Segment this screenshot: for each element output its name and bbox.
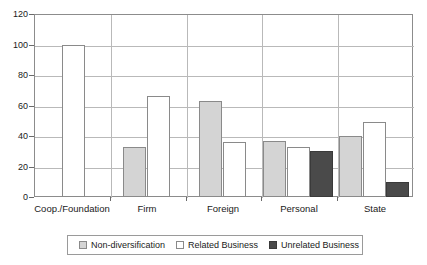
y-tick-label-20: 20 <box>0 163 28 172</box>
bar-personal-related <box>287 147 310 197</box>
x-tick-mark-2 <box>186 197 187 201</box>
y-tick-label-60: 60 <box>0 102 28 111</box>
bar-state-non-diversification <box>339 136 362 197</box>
legend-label-related-business: Related Business <box>188 241 258 250</box>
bars-layer <box>34 14 413 197</box>
chart-legend: Non-diversification Related Business Unr… <box>67 235 363 255</box>
x-tick-mark-4 <box>337 197 338 201</box>
legend-label-non-diversification: Non-diversification <box>91 241 165 250</box>
y-tick-label-80: 80 <box>0 71 28 80</box>
bar-coop-foundation-related <box>62 45 85 198</box>
legend-item-non-diversification: Non-diversification <box>79 241 165 250</box>
x-tick-mark-1 <box>110 197 111 201</box>
legend-item-unrelated-business: Unrelated Business <box>269 241 359 250</box>
y-tick-label-100: 100 <box>0 41 28 50</box>
bar-foreign-non-diversification <box>199 101 222 197</box>
bar-personal-non-diversification <box>263 141 286 197</box>
bar-personal-unrelated <box>310 151 333 197</box>
bar-firm-related <box>147 96 170 197</box>
bar-state-unrelated <box>386 182 409 197</box>
bar-foreign-related <box>223 142 246 197</box>
legend-swatch-icon-related-business <box>176 241 184 249</box>
x-tick-mark-3 <box>261 197 262 201</box>
bar-state-related <box>363 122 386 197</box>
legend-swatch-icon-unrelated-business <box>269 241 277 249</box>
bar-firm-non-diversification <box>123 147 146 197</box>
y-tick-mark-0 <box>29 197 34 198</box>
y-tick-label-40: 40 <box>0 132 28 141</box>
legend-swatch-icon-non-diversification <box>79 241 87 249</box>
y-tick-label-120: 120 <box>0 10 28 19</box>
x-label-state: State <box>325 203 425 214</box>
bar-chart: 120 100 80 60 40 20 0 Coop./Foundation F… <box>0 0 427 265</box>
legend-label-unrelated-business: Unrelated Business <box>281 241 359 250</box>
legend-item-related-business: Related Business <box>176 241 258 250</box>
y-tick-label-0: 0 <box>0 193 28 202</box>
